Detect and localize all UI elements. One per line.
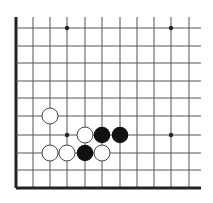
black-stone bbox=[77, 145, 94, 162]
star-point bbox=[65, 133, 69, 137]
white-stone bbox=[42, 145, 58, 161]
star-point bbox=[65, 26, 69, 30]
white-stone bbox=[77, 127, 93, 143]
star-point bbox=[169, 133, 173, 137]
star-point bbox=[169, 26, 173, 30]
grid-lines bbox=[16, 17, 201, 188]
white-stone bbox=[94, 145, 110, 161]
go-board bbox=[0, 0, 213, 203]
black-stone bbox=[112, 127, 129, 144]
white-stone bbox=[59, 145, 75, 161]
white-stone bbox=[42, 108, 58, 124]
black-stone bbox=[94, 127, 111, 144]
